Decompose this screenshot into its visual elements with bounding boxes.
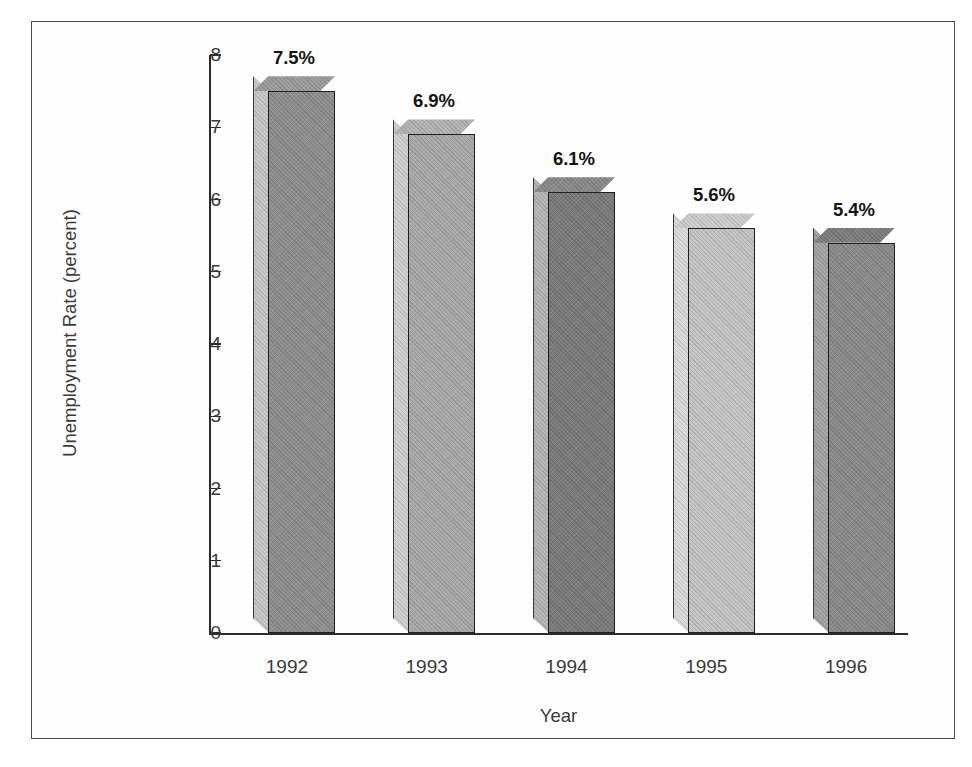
texture-overlay xyxy=(394,119,409,633)
bar-side-face xyxy=(533,177,549,633)
texture-overlay xyxy=(814,228,829,633)
y-axis-tick-label: 3 xyxy=(195,406,221,425)
x-axis-line xyxy=(209,633,908,635)
x-axis-label-1996: 1996 xyxy=(796,656,896,678)
bar-value-label-1996: 5.4% xyxy=(803,199,905,221)
bar-1994[interactable] xyxy=(533,177,615,633)
bar-value-label-1995: 5.6% xyxy=(663,184,765,206)
bar-front-face xyxy=(268,91,335,633)
y-axis-title: Unemployment Rate (percent) xyxy=(59,173,81,493)
bar-top-face xyxy=(813,228,895,243)
texture-overlay xyxy=(689,229,754,632)
y-axis-tick-label: 8 xyxy=(195,45,221,64)
bar-1993[interactable] xyxy=(393,119,475,633)
bar-front-face xyxy=(828,243,895,633)
bar-top-face xyxy=(253,76,335,91)
bar-front-face xyxy=(548,192,615,633)
x-axis-label-1993: 1993 xyxy=(377,656,477,678)
bar-side-face xyxy=(253,76,269,633)
x-axis-label-1994: 1994 xyxy=(517,656,617,678)
bar-front-face xyxy=(688,228,755,633)
texture-overlay xyxy=(253,76,335,91)
bar-1996[interactable] xyxy=(813,228,895,633)
bar-side-face xyxy=(813,228,829,633)
texture-overlay xyxy=(673,213,755,228)
x-axis-label-1995: 1995 xyxy=(656,656,756,678)
bar-1995[interactable] xyxy=(673,213,755,633)
y-axis-tick-label: 0 xyxy=(195,623,221,642)
texture-overlay xyxy=(409,135,474,632)
y-axis-tick-label: 4 xyxy=(195,334,221,353)
bar-value-label-1992: 7.5% xyxy=(243,47,345,69)
y-axis-tick-label: 5 xyxy=(195,262,221,281)
texture-overlay xyxy=(393,119,475,134)
texture-overlay xyxy=(674,213,689,633)
texture-overlay xyxy=(829,244,894,632)
texture-overlay xyxy=(813,228,895,243)
bar-1992[interactable] xyxy=(253,76,335,633)
bar-top-face xyxy=(673,213,755,228)
texture-overlay xyxy=(549,193,614,632)
figure-frame: 876543210 Unemployment Rate (percent) 7.… xyxy=(31,21,955,739)
bar-value-label-1993: 6.9% xyxy=(383,90,485,112)
bar-value-label-1994: 6.1% xyxy=(523,148,625,170)
bar-side-face xyxy=(393,119,409,633)
y-axis-tick-label: 7 xyxy=(195,117,221,136)
bar-front-face xyxy=(408,134,475,633)
bar-chart-plot-area: 876543210 Unemployment Rate (percent) 7.… xyxy=(32,22,956,740)
texture-overlay xyxy=(254,76,269,633)
texture-overlay xyxy=(533,177,615,192)
texture-overlay xyxy=(534,177,549,633)
bar-top-face xyxy=(533,177,615,192)
y-axis-tick-label: 1 xyxy=(195,551,221,570)
texture-overlay xyxy=(269,92,334,632)
bar-side-face xyxy=(673,213,689,633)
y-axis-tick-label: 2 xyxy=(195,479,221,498)
x-axis-label-1992: 1992 xyxy=(237,656,337,678)
y-axis-tick-label: 6 xyxy=(195,190,221,209)
x-axis-title: Year xyxy=(209,705,908,727)
bar-top-face xyxy=(393,119,475,134)
